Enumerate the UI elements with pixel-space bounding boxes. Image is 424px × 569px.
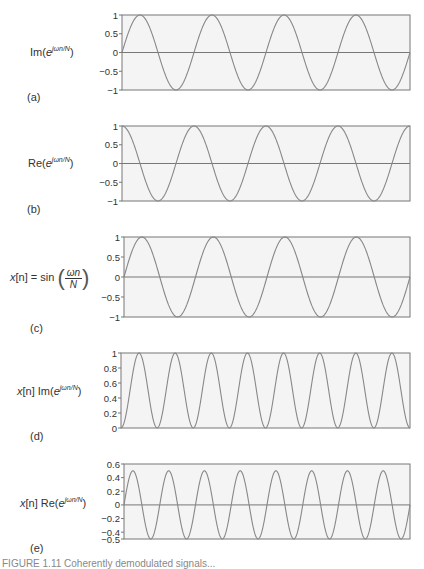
ytick-label: 0.5 — [105, 139, 118, 150]
ytick-label: 0 — [113, 47, 118, 58]
ytick-label: 1 — [115, 232, 120, 243]
ytick-label: −1 — [107, 196, 118, 207]
ytick-label: 0.6 — [107, 459, 120, 470]
ytick-label: 1 — [113, 10, 118, 21]
ytick-label: −0.2 — [101, 513, 120, 524]
ytick-label: 0.6 — [104, 378, 117, 389]
ytick-label: 0 — [115, 272, 120, 283]
ytick-label: 1 — [112, 348, 117, 359]
ytick-label: 0 — [113, 158, 118, 169]
ytick-label: 1 — [113, 121, 118, 132]
ytick-label: −0.5 — [101, 292, 120, 303]
ytick-label: 0.8 — [104, 363, 117, 374]
plot-area — [124, 464, 410, 539]
ytick-label: −0.5 — [101, 534, 120, 545]
ytick-label: 0.4 — [104, 393, 117, 404]
ytick-label: −1 — [109, 312, 120, 323]
ytick-label: 0.5 — [105, 28, 118, 39]
ytick-label: 0.5 — [107, 252, 120, 263]
ytick-label: −0.5 — [99, 66, 118, 77]
panel-a: 10.50−0.5−1 — [99, 10, 410, 96]
panel-e: 0.60.40.20−0.2−0.4−0.5 — [101, 459, 410, 545]
ytick-label: 0.2 — [104, 408, 117, 419]
ytick-label: −0.5 — [99, 177, 118, 188]
ytick-label: 0.2 — [107, 486, 120, 497]
ytick-label: −1 — [107, 85, 118, 96]
ytick-label: 0 — [112, 423, 117, 434]
figure-caption: FIGURE 1.11 Coherently demodulated signa… — [2, 558, 215, 569]
panel-b: 10.50−0.5−1 — [99, 121, 410, 207]
panel-d: 10.80.60.40.20 — [104, 348, 410, 434]
ytick-label: 0.4 — [107, 472, 120, 483]
ytick-label: 0 — [115, 499, 120, 510]
plot-area — [121, 353, 410, 428]
panel-c: 10.50−0.5−1 — [101, 232, 410, 323]
